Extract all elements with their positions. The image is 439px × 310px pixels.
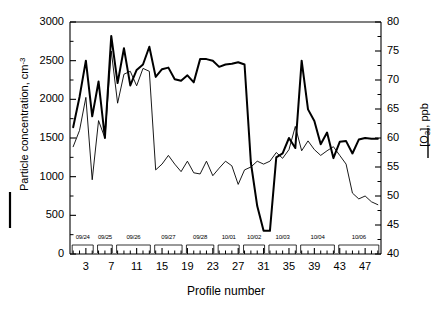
y-axis-left-tick-label: 0 [20,247,64,259]
y-axis-right-title: [O3], ppb [418,60,432,190]
chart-figure: Particle concentration, cm-3 [O3], ppb P… [0,0,439,310]
y-axis-left-tick-label: 1500 [20,131,64,143]
date-group-label: 10/06 [343,234,375,240]
y-axis-left-tick-label: 2000 [20,92,64,104]
date-group-bracket [72,245,93,253]
y-axis-right-title-prefix: [O [418,135,430,147]
y-axis-right-tick-label: 60 [387,131,413,143]
date-group-label: 09/27 [152,234,184,240]
date-group-bracket [301,245,335,253]
date-group-label: 10/02 [238,234,270,240]
series-line-particle-concentration [73,36,378,231]
y-axis-right-title-sub: 3 [423,131,432,135]
y-axis-right-tick-label: 55 [387,160,413,172]
date-group-label: 09/26 [117,234,149,240]
y-axis-right-tick-label: 75 [387,44,413,56]
date-group-bracket [244,245,265,253]
y-axis-left-tick-label: 3000 [20,15,64,27]
y-axis-right-title-suffix: ], ppb [418,103,430,131]
y-axis-left-tick-label: 500 [20,208,64,220]
y-axis-right-tick-label: 70 [387,73,413,85]
y-axis-right-tick-label: 40 [387,247,413,259]
date-group-bracket [117,245,151,253]
x-axis-tick-label: 47 [350,260,380,272]
y-axis-right-tick-label: 45 [387,218,413,230]
date-group-label: 09/28 [184,234,216,240]
y-axis-right-tick-label: 50 [387,189,413,201]
date-group-label: 09/25 [89,234,121,240]
date-group-label: 10/03 [267,234,299,240]
date-group-label: 10/04 [302,234,334,240]
y-axis-left-tick-label: 1000 [20,170,64,182]
date-group-bracket [218,245,239,253]
x-axis-title: Profile number [70,284,382,298]
y-axis-left-tick-label: 2500 [20,54,64,66]
y-axis-right-tick-label: 80 [387,15,413,27]
y-axis-right-tick-label: 65 [387,102,413,114]
